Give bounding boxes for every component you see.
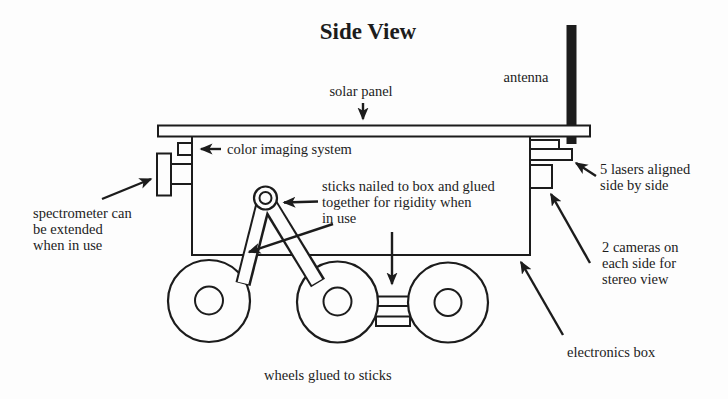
- wheel-rear-hub: [435, 289, 462, 316]
- lasers-arrow: [576, 163, 596, 176]
- spectrometer-connector-shape: [171, 164, 192, 184]
- wheel-link-bar-bottom: [376, 317, 410, 327]
- solar-panel-shape: [158, 126, 590, 137]
- electronics-box-label: electronics box: [567, 344, 655, 360]
- rover-side-view-diagram: Side View solar panel antenna color imag…: [0, 0, 728, 399]
- cameras-arrow: [551, 194, 590, 263]
- color-imaging-system-shape: [178, 143, 192, 155]
- spectrometer-shape: [157, 154, 171, 196]
- laser-unit-bottom-shape: [530, 149, 572, 160]
- wheel-link-bar-top: [376, 297, 410, 307]
- spectrometer-label: spectrometer can be extended when in use: [33, 205, 132, 253]
- wheels-label: wheels glued to sticks: [264, 367, 392, 383]
- camera-unit-shape: [530, 165, 552, 188]
- sticks-label: sticks nailed to box and glued together …: [322, 178, 495, 226]
- cameras-label: 2 cameras on each side for stereo view: [602, 239, 679, 287]
- color-imaging-label: color imaging system: [227, 141, 352, 157]
- wheel-middle-hub: [324, 288, 352, 316]
- lasers-label: 5 lasers aligned side by side: [600, 161, 690, 193]
- sticks-pivot-arrow: [284, 202, 318, 203]
- electronics-box-arrow: [521, 262, 563, 335]
- spectrometer-arrow: [102, 179, 151, 199]
- wheel-front-hub: [195, 287, 223, 315]
- antenna-label: antenna: [476, 69, 576, 85]
- stick-pivot-nail: [260, 192, 272, 204]
- diagram-title: Side View: [264, 19, 472, 45]
- solar-panel-label: solar panel: [311, 83, 411, 99]
